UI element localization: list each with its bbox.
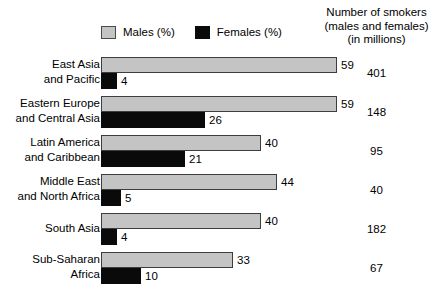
females-bar — [101, 268, 141, 284]
females-bar-value: 10 — [145, 268, 158, 284]
bar-wrap-females: 10 — [101, 268, 250, 284]
row-bars: 4021 — [101, 135, 278, 167]
row-bars: 445 — [101, 174, 294, 206]
bar-wrap-males: 40 — [101, 213, 278, 229]
smokers-count-value: 95 — [370, 145, 383, 157]
chart-row: Middle Eastand North Africa44540 — [0, 174, 441, 206]
smokers-count-value: 148 — [367, 106, 386, 118]
row-category-label-line2: and Pacific — [0, 72, 100, 87]
males-bar-value: 40 — [265, 135, 278, 151]
males-bar — [101, 57, 337, 73]
females-bar — [101, 73, 117, 89]
smokers-count: 182 — [312, 213, 441, 245]
smokers-count-value: 67 — [370, 262, 383, 274]
smoking-prevalence-chart: Males (%) Females (%) Number of smokers … — [0, 0, 441, 292]
bar-wrap-females: 5 — [101, 190, 294, 206]
females-bar-value: 26 — [209, 112, 222, 128]
females-bar-value: 5 — [125, 190, 131, 206]
legend-label-males: Males (%) — [123, 26, 175, 39]
chart-row: Sub-SaharanAfrica331067 — [0, 252, 441, 284]
bar-wrap-males: 33 — [101, 252, 250, 268]
males-bar-value: 33 — [237, 252, 250, 268]
males-bar — [101, 252, 233, 268]
row-category-label: Sub-SaharanAfrica — [0, 252, 100, 282]
row-category-label: East Asiaand Pacific — [0, 57, 100, 87]
chart-row: East Asiaand Pacific594401 — [0, 57, 441, 89]
row-category-label-line1: Latin America — [30, 136, 100, 148]
row-category-label: Latin Americaand Caribbean — [0, 135, 100, 165]
smokers-count-value: 182 — [367, 223, 386, 235]
bar-wrap-females: 4 — [101, 229, 278, 245]
row-category-label-line2: and Central Asia — [0, 111, 100, 126]
females-bar-value: 21 — [189, 151, 202, 167]
row-category-label: South Asia — [0, 221, 100, 236]
smokers-column-header: Number of smokers (males and females) (i… — [312, 6, 441, 47]
chart-row: Eastern Europeand Central Asia5926148 — [0, 96, 441, 128]
smokers-count-value: 40 — [370, 184, 383, 196]
row-category-label-line2: and North Africa — [0, 189, 100, 204]
smokers-header-line3: (in millions) — [312, 33, 441, 47]
females-bar-value: 4 — [121, 73, 127, 89]
row-category-label-line1: Middle East — [40, 175, 100, 187]
bar-wrap-males: 44 — [101, 174, 294, 190]
males-bar — [101, 96, 337, 112]
legend-item-males: Males (%) — [101, 26, 175, 39]
smokers-count: 40 — [312, 174, 441, 206]
row-category-label-line2: Africa — [0, 267, 100, 282]
row-bars: 404 — [101, 213, 278, 245]
legend-label-females: Females (%) — [217, 26, 282, 39]
chart-legend: Males (%) Females (%) — [101, 22, 302, 42]
smokers-count-value: 401 — [367, 67, 386, 79]
row-category-label-line1: Eastern Europe — [20, 97, 100, 109]
legend-item-females: Females (%) — [195, 26, 282, 39]
males-bar — [101, 174, 277, 190]
row-category-label-line1: Sub-Saharan — [32, 253, 100, 265]
row-category-label-line2: and Caribbean — [0, 150, 100, 165]
smokers-count: 401 — [312, 57, 441, 89]
bar-wrap-males: 40 — [101, 135, 278, 151]
females-bar — [101, 151, 185, 167]
males-bar-value: 44 — [281, 174, 294, 190]
row-category-label-line1: East Asia — [52, 58, 100, 70]
males-bar — [101, 135, 261, 151]
females-bar-value: 4 — [121, 229, 127, 245]
males-swatch-icon — [101, 26, 116, 39]
females-swatch-icon — [195, 26, 210, 39]
females-bar — [101, 229, 117, 245]
row-category-label: Eastern Europeand Central Asia — [0, 96, 100, 126]
smokers-count: 67 — [312, 252, 441, 284]
smokers-count: 95 — [312, 135, 441, 167]
males-bar — [101, 213, 261, 229]
smokers-header-line1: Number of smokers — [312, 6, 441, 20]
row-category-label: Middle Eastand North Africa — [0, 174, 100, 204]
males-bar-value: 40 — [265, 213, 278, 229]
row-category-label-line1: South Asia — [45, 222, 100, 234]
chart-row: South Asia404182 — [0, 213, 441, 245]
row-bars: 3310 — [101, 252, 250, 284]
bar-wrap-females: 21 — [101, 151, 278, 167]
chart-row: Latin Americaand Caribbean402195 — [0, 135, 441, 167]
smokers-header-line2: (males and females) — [312, 20, 441, 34]
females-bar — [101, 112, 205, 128]
females-bar — [101, 190, 121, 206]
smokers-count: 148 — [312, 96, 441, 128]
